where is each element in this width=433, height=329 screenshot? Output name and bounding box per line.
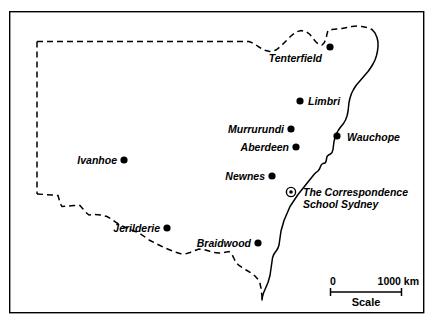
marker-aberdeen[interactable] bbox=[292, 143, 299, 150]
scale-max-label: 1000 km bbox=[378, 275, 419, 287]
marker-murrurundi[interactable] bbox=[287, 125, 294, 132]
northern-boundary bbox=[37, 26, 372, 52]
marker-newnes[interactable] bbox=[268, 172, 275, 179]
coastline bbox=[262, 30, 378, 301]
label-murrurundi: Murrurundi bbox=[228, 123, 285, 135]
map-figure: Tenterfield Limbri Murrurundi Wauchope A… bbox=[0, 0, 433, 329]
map-canvas: Tenterfield Limbri Murrurundi Wauchope A… bbox=[0, 0, 433, 329]
marker-ivanhoe[interactable] bbox=[120, 156, 127, 163]
label-limbri: Limbri bbox=[308, 95, 341, 107]
label-aberdeen: Aberdeen bbox=[240, 141, 289, 153]
label-tenterfield: Tenterfield bbox=[269, 52, 323, 64]
map-border-frame bbox=[10, 12, 424, 313]
label-correspondence-school-line1: The Correspondence bbox=[303, 186, 408, 198]
label-braidwood: Braidwood bbox=[197, 237, 252, 249]
scale-bar: 0 1000 km Scale bbox=[330, 275, 419, 308]
marker-jerilderie[interactable] bbox=[163, 224, 170, 231]
label-correspondence-school-line2: School Sydney bbox=[303, 198, 379, 210]
marker-tenterfield[interactable] bbox=[326, 43, 333, 50]
scale-caption: Scale bbox=[352, 296, 381, 308]
label-wauchope: Wauchope bbox=[347, 131, 400, 143]
marker-correspondence-school-sydney[interactable] bbox=[286, 187, 295, 196]
marker-wauchope[interactable] bbox=[333, 132, 340, 139]
label-ivanhoe: Ivanhoe bbox=[77, 154, 117, 166]
label-newnes: Newnes bbox=[225, 170, 265, 182]
label-jerilderie: Jerilderie bbox=[113, 222, 160, 234]
scale-min-label: 0 bbox=[330, 275, 336, 287]
place-markers bbox=[120, 43, 340, 246]
target-center-icon bbox=[289, 190, 293, 194]
marker-braidwood[interactable] bbox=[254, 239, 261, 246]
marker-limbri[interactable] bbox=[296, 97, 303, 104]
